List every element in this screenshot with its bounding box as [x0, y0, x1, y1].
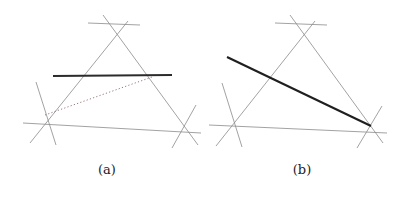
- panel-a-caption: (a): [98, 162, 116, 177]
- geometry-figure-canvas: (a) (b): [0, 0, 406, 197]
- panel-b-caption: (b): [293, 162, 311, 177]
- geometry-figure-container: (a) (b): [0, 0, 406, 197]
- line-bold-horizontal-chord: [53, 75, 172, 76]
- figure-background: [0, 0, 406, 197]
